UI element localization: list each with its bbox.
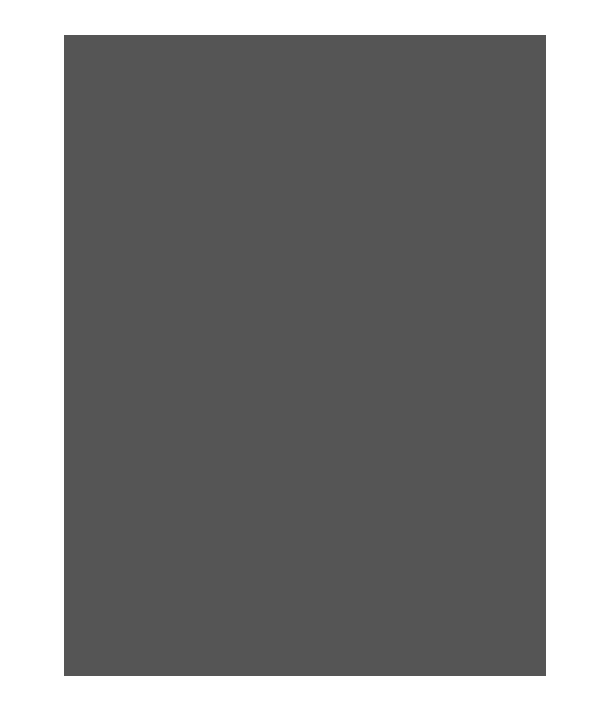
chart-grid (64, 35, 546, 676)
knitting-chart (64, 35, 546, 676)
